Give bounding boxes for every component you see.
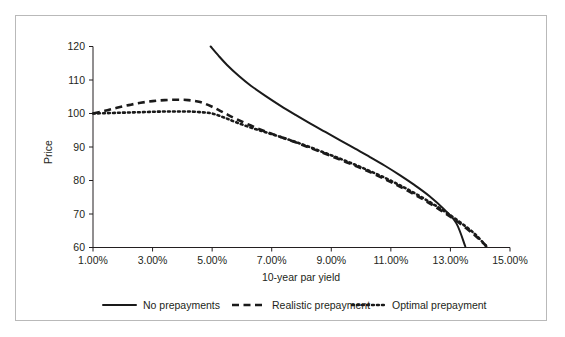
y-tick-group <box>89 47 93 248</box>
x-tick-label-group: 1.00%3.00%5.00%7.00%9.00%11.00%13.00%15.… <box>78 254 528 266</box>
legend-label-1: Realistic prepayment <box>272 299 370 311</box>
figure-container: 60708090100110120 1.00%3.00%5.00%7.00%9.… <box>0 0 565 337</box>
x-tick-label: 7.00% <box>257 254 287 266</box>
x-tick-label: 5.00% <box>197 254 227 266</box>
legend-label-0: No prepayments <box>143 299 220 311</box>
x-tick-label: 9.00% <box>316 254 346 266</box>
x-tick-label: 15.00% <box>492 254 528 266</box>
series-line-dashed <box>93 100 486 246</box>
y-axis-title: Price <box>42 140 54 164</box>
legend-label-2: Optimal prepayment <box>392 299 487 311</box>
chart-legend: No prepaymentsRealistic prepaymentOptima… <box>103 299 487 311</box>
chart-canvas: 60708090100110120 1.00%3.00%5.00%7.00%9.… <box>0 0 565 337</box>
y-tick-label: 60 <box>73 241 85 253</box>
axes-group <box>93 47 510 248</box>
x-tick-group <box>93 248 510 252</box>
data-series-group <box>93 47 486 247</box>
x-tick-label: 13.00% <box>433 254 469 266</box>
y-tick-label: 120 <box>67 40 85 52</box>
y-tick-label: 80 <box>73 174 85 186</box>
y-tick-label: 100 <box>67 107 85 119</box>
y-tick-label: 110 <box>68 74 85 86</box>
x-tick-label: 1.00% <box>78 254 108 266</box>
series-line-dotted <box>93 111 486 246</box>
x-tick-label: 3.00% <box>138 254 168 266</box>
y-tick-label-group: 60708090100110120 <box>67 40 85 253</box>
y-tick-label: 90 <box>73 141 85 153</box>
x-tick-label: 11.00% <box>373 254 408 266</box>
x-axis-title: 10-year par yield <box>262 271 340 283</box>
y-tick-label: 70 <box>73 208 85 220</box>
series-line-solid <box>211 47 466 247</box>
